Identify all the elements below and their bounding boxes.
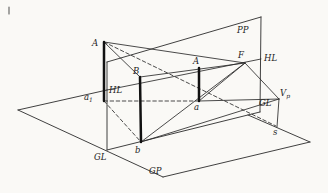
pp-bottom-edge-gl [107,112,260,150]
label-vp: Vp [280,88,290,100]
object-line-B-b [140,77,141,142]
label-pp: PP [236,25,249,35]
perspective-diagram-canvas: PPHLFAABHLa1aGLVpsGLGPb [0,0,328,193]
line-Vp-to-s [277,99,279,127]
gp-front-right-edge [163,142,310,177]
line-A-to-F [104,42,245,63]
label-b-lower: b [135,145,140,155]
label-hl-left: HL [108,85,122,95]
dashed-a1-to-b [104,101,141,142]
label-a-lower: a [194,102,199,112]
label-gl-right: GL [259,98,272,108]
label-s: s [273,127,278,137]
label-a-image: A [192,56,199,66]
label-f: F [237,50,245,60]
line-F-to-Vp [245,63,279,99]
label-hl-right: HL [263,53,277,63]
perspective-projection-diagram: PPHLFAABHLa1aGLVpsGLGPb [0,0,328,193]
label-gl-left: GL [94,152,107,162]
label-gp: GP [149,166,162,176]
label-a-object: A [91,38,98,48]
label-b-object: B [132,66,139,76]
gp-back-right-edge [248,115,310,142]
gp-back-left-edge [18,90,107,110]
